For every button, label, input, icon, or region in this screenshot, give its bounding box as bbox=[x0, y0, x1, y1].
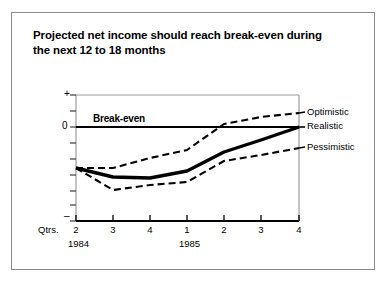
year-label-1985: 1985 bbox=[179, 238, 200, 249]
x-tick-label-1: 3 bbox=[106, 224, 120, 235]
y-axis-label-zero: 0 bbox=[62, 120, 68, 131]
year-label-1984: 1984 bbox=[68, 238, 89, 249]
x-tick-label-5: 3 bbox=[254, 224, 268, 235]
x-tick-label-6: 4 bbox=[292, 224, 306, 235]
breakeven-annotation: Break-even bbox=[93, 113, 145, 124]
series-label-pessimistic: Pessimistic bbox=[307, 141, 355, 152]
series-label-optimistic: Optimistic bbox=[307, 106, 349, 117]
x-tick-label-2: 4 bbox=[143, 224, 157, 235]
x-tick-label-0: 2 bbox=[69, 224, 83, 235]
x-tick-label-3: 1 bbox=[180, 224, 194, 235]
y-axis-ticks bbox=[70, 95, 76, 221]
x-tick-label-4: 2 bbox=[217, 224, 231, 235]
series-label-leaders bbox=[299, 112, 305, 148]
y-axis-label-plus: + bbox=[64, 88, 70, 99]
series-line-realistic bbox=[76, 127, 299, 178]
x-axis-title: Qtrs. bbox=[38, 224, 59, 235]
y-axis-label-minus: – bbox=[64, 210, 70, 221]
series-label-realistic: Realistic bbox=[307, 120, 343, 131]
